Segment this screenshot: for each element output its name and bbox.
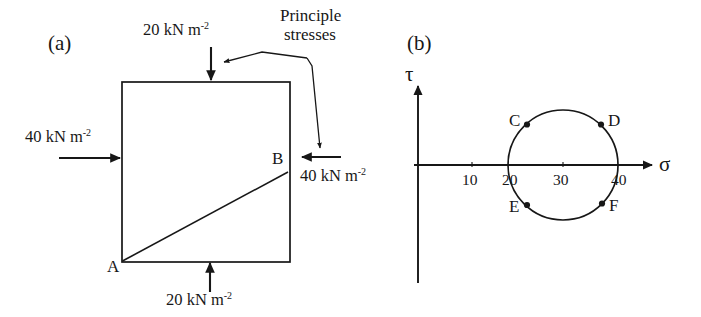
sigma-tick-label-20: 20 (502, 172, 518, 188)
load-label-bottom-exponent: -2 (224, 290, 232, 301)
leader-line-to-top-arrow (224, 52, 307, 62)
load-label-top-exponent: -2 (201, 20, 209, 31)
load-label-bottom-value: 20 kN m (166, 290, 224, 309)
data-point-e (524, 202, 530, 208)
sigma-tick-label-10: 10 (462, 172, 478, 188)
load-label-left-exponent: -2 (83, 127, 91, 138)
point-label-d: D (608, 112, 620, 129)
data-point-f (599, 200, 605, 206)
sigma-tick-label-40: 40 (611, 172, 627, 188)
load-label-top-value: 20 kN m (143, 20, 201, 39)
figure-vector-layer (0, 0, 701, 317)
principle-stresses-annotation: Principle stresses (280, 6, 341, 44)
load-label-left: 40 kN m-2 (25, 129, 91, 146)
mohr-circle-figure: (a) 20 kN m-2 20 kN m-2 40 kN m-2 40 kN … (0, 0, 701, 317)
load-label-right-value: 40 kN m (300, 166, 358, 185)
sigma-tick-label-30: 30 (553, 172, 569, 188)
point-label-f: F (609, 197, 618, 214)
point-label-e: E (509, 198, 519, 215)
diagonal-plane-line (123, 172, 289, 261)
panel-a-tag: (a) (48, 33, 71, 54)
load-label-right: 40 kN m-2 (300, 168, 366, 185)
annotation-line-2: stresses (284, 25, 341, 44)
element-square (122, 82, 290, 262)
load-label-top: 20 kN m-2 (143, 22, 209, 39)
sigma-axis-label: σ (659, 154, 670, 175)
tau-axis-label: τ (405, 64, 413, 85)
data-point-d (598, 121, 604, 127)
corner-label-a: A (107, 258, 119, 275)
annotation-line-1: Principle (280, 6, 341, 25)
load-label-bottom: 20 kN m-2 (166, 292, 232, 309)
load-label-right-exponent: -2 (358, 166, 366, 177)
point-label-c: C (509, 112, 520, 129)
corner-label-b: B (272, 150, 283, 167)
leader-line-to-right-arrow (307, 58, 320, 148)
panel-b-tag: (b) (407, 33, 432, 54)
data-point-c (524, 121, 530, 127)
load-label-left-value: 40 kN m (25, 127, 83, 146)
